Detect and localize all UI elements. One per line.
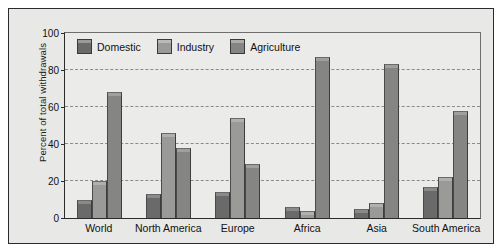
bar-industry-europe (230, 118, 245, 218)
bar-group (342, 33, 411, 218)
bar-industry-asia (369, 203, 384, 218)
bar-agriculture-north-america (176, 148, 191, 218)
bar-domestic-asia (354, 209, 369, 218)
x-tick-label-asia: Asia (342, 222, 412, 234)
x-tick-label-north-america: North America (134, 222, 204, 234)
bar-domestic-south-america (423, 187, 438, 218)
bar-agriculture-africa (315, 57, 330, 218)
bar-group (411, 33, 480, 218)
bar-domestic-world (77, 200, 92, 219)
bar-agriculture-asia (384, 64, 399, 218)
bar-industry-africa (300, 211, 315, 218)
bar-industry-world (92, 181, 107, 218)
x-tick-label-africa: Africa (273, 222, 343, 234)
x-axis-tick-labels: WorldNorth AmericaEuropeAfricaAsiaSouth … (64, 222, 481, 234)
bar-group (134, 33, 203, 218)
bar-industry-north-america (161, 133, 176, 218)
bar-domestic-europe (215, 192, 230, 218)
bar-group (273, 33, 342, 218)
bar-groups (65, 33, 480, 218)
bar-agriculture-europe (245, 164, 260, 218)
x-tick-label-south-america: South America (412, 222, 482, 234)
bar-domestic-north-america (146, 194, 161, 218)
y-tick-mark-0 (61, 218, 65, 219)
chart-figure: Percent of total withdrawals 10080604020… (8, 8, 494, 244)
bar-agriculture-south-america (453, 111, 468, 218)
bar-industry-south-america (438, 177, 453, 218)
x-tick-label-europe: Europe (203, 222, 273, 234)
bar-domestic-africa (285, 207, 300, 218)
x-tick-label-world: World (64, 222, 134, 234)
bar-group (65, 33, 134, 218)
y-axis-title: Percent of total withdrawals (37, 18, 48, 188)
plot-area: 100806040200 Domestic Industry Agricultu… (64, 32, 481, 219)
bar-agriculture-world (107, 92, 122, 218)
bar-group (203, 33, 272, 218)
